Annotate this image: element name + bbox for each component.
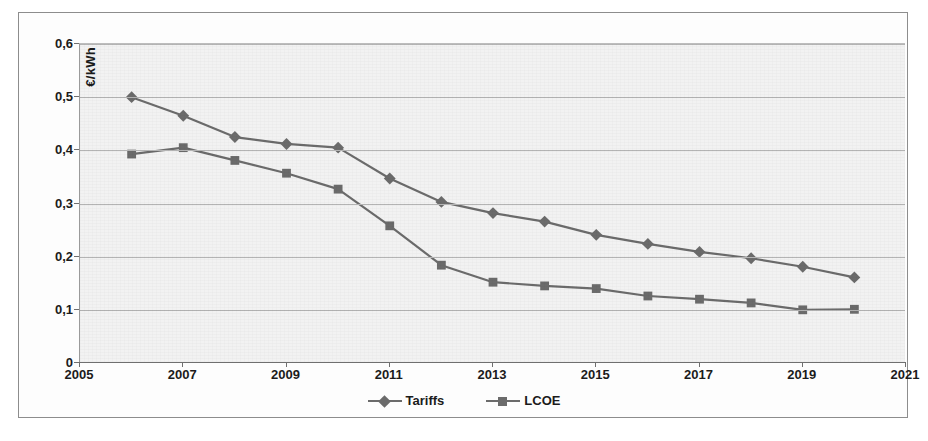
y-tick-mark-3 <box>74 203 79 204</box>
marker-lcoe-2015 <box>592 284 601 293</box>
x-tick-mark-1 <box>182 362 183 367</box>
marker-lcoe-2009 <box>282 169 291 178</box>
chart-frame: 00,10,20,30,40,50,6 €/kWh 20052007200920… <box>18 12 908 418</box>
gridline-y-6 <box>80 44 905 45</box>
marker-tariffs-2007 <box>177 110 189 122</box>
legend-label: LCOE <box>524 393 560 408</box>
gridline-y-4 <box>80 150 905 151</box>
legend-marker-diamond-icon <box>378 395 391 408</box>
marker-tariffs-2013 <box>487 207 499 219</box>
legend-swatch-lcoe-icon <box>486 395 520 407</box>
marker-tariffs-2018 <box>745 252 757 264</box>
marker-lcoe-2010 <box>334 185 343 194</box>
marker-tariffs-2012 <box>435 196 447 208</box>
y-axis-title: €/kWh <box>83 47 98 87</box>
x-tick-label-0: 2005 <box>65 367 94 382</box>
x-tick-mark-7 <box>802 362 803 367</box>
gridline-y-2 <box>80 257 905 258</box>
plot-area <box>79 43 905 362</box>
marker-tariffs-2008 <box>229 131 241 143</box>
x-tick-mark-8 <box>905 362 906 367</box>
legend-entry-tariffs[interactable]: Tariffs <box>368 393 445 408</box>
legend-entry-lcoe[interactable]: LCOE <box>486 393 560 408</box>
y-tick-label-4: 0,4 <box>31 142 73 157</box>
x-tick-label-2: 2009 <box>271 367 300 382</box>
chart-legend: TariffsLCOE <box>19 393 909 408</box>
marker-tariffs-2019 <box>797 261 809 273</box>
series-tariffs <box>126 91 861 283</box>
marker-tariffs-2020 <box>848 271 860 283</box>
y-tick-label-5: 0,5 <box>31 89 73 104</box>
legend-swatch-tariffs-icon <box>368 395 402 407</box>
marker-tariffs-2016 <box>642 238 654 250</box>
y-tick-mark-1 <box>74 309 79 310</box>
marker-lcoe-2017 <box>695 295 704 304</box>
gridline-y-1 <box>80 310 905 311</box>
x-tick-mark-0 <box>79 362 80 367</box>
y-tick-mark-2 <box>74 256 79 257</box>
marker-lcoe-2018 <box>747 299 756 308</box>
x-tick-label-5: 2015 <box>581 367 610 382</box>
x-tick-label-8: 2021 <box>891 367 920 382</box>
marker-tariffs-2011 <box>384 173 396 185</box>
y-tick-label-6: 0,6 <box>31 36 73 51</box>
gridline-y-5 <box>80 97 905 98</box>
gridline-y-3 <box>80 204 905 205</box>
x-tick-mark-5 <box>595 362 596 367</box>
marker-lcoe-2011 <box>385 221 394 230</box>
y-tick-label-1: 0,1 <box>31 301 73 316</box>
marker-lcoe-2013 <box>489 278 498 287</box>
series-line-tariffs <box>132 97 855 277</box>
marker-lcoe-2014 <box>540 282 549 291</box>
marker-lcoe-2008 <box>230 156 239 165</box>
y-tick-mark-5 <box>74 96 79 97</box>
marker-lcoe-2016 <box>643 292 652 301</box>
marker-tariffs-2015 <box>590 229 602 241</box>
marker-tariffs-2010 <box>332 142 344 154</box>
x-tick-label-7: 2019 <box>787 367 816 382</box>
y-tick-mark-6 <box>74 43 79 44</box>
x-tick-mark-2 <box>286 362 287 367</box>
x-tick-mark-3 <box>389 362 390 367</box>
x-tick-label-3: 2011 <box>375 367 403 382</box>
y-tick-label-2: 0,2 <box>31 248 73 263</box>
legend-marker-square-icon <box>498 397 507 406</box>
x-tick-mark-4 <box>492 362 493 367</box>
x-tick-label-6: 2017 <box>684 367 713 382</box>
marker-lcoe-2012 <box>437 261 446 270</box>
y-tick-mark-4 <box>74 149 79 150</box>
x-tick-label-1: 2007 <box>168 367 197 382</box>
marker-tariffs-2014 <box>539 216 551 228</box>
legend-label: Tariffs <box>406 393 445 408</box>
series-lcoe <box>127 143 859 314</box>
x-tick-mark-6 <box>699 362 700 367</box>
y-tick-label-3: 0,3 <box>31 195 73 210</box>
marker-tariffs-2009 <box>281 138 293 150</box>
x-tick-label-4: 2013 <box>478 367 507 382</box>
